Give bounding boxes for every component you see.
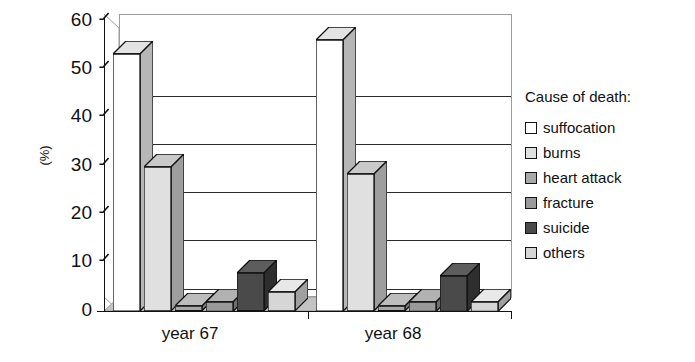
- bar-front-face: [471, 302, 498, 311]
- legend-swatch-suicide-icon: [525, 222, 537, 234]
- y-tickmark-20: [99, 205, 109, 216]
- legend-swatch-others-icon: [525, 247, 537, 259]
- y-tickmark-50: [99, 60, 109, 71]
- bar-front-face: [440, 276, 467, 311]
- bar-front-face: [378, 306, 405, 311]
- legend-item-fracture[interactable]: fracture: [525, 194, 693, 211]
- bar-front-face: [175, 306, 202, 311]
- x-category-label-year-68: year 68: [333, 324, 453, 344]
- bar-front-face: [113, 54, 140, 311]
- bar-side-face: [374, 161, 387, 311]
- y-tick-label-40: 40: [48, 106, 92, 125]
- bar-year-68-burns: [347, 161, 387, 311]
- legend-label: suicide: [543, 219, 590, 236]
- legend-label: suffocation: [543, 119, 615, 136]
- y-tickmark-40: [99, 108, 109, 119]
- legend-swatch-burns-icon: [525, 147, 537, 159]
- y-tick-label-60: 60: [48, 10, 92, 29]
- bar-year-68-others: [471, 289, 511, 311]
- legend-title: Cause of death:: [525, 88, 693, 105]
- legend-swatch-suffocation-icon: [525, 122, 537, 134]
- legend-item-burns[interactable]: burns: [525, 144, 693, 161]
- legend-item-suffocation[interactable]: suffocation: [525, 119, 693, 136]
- legend-label: others: [543, 244, 585, 261]
- legend-swatch-fracture-icon: [525, 197, 537, 209]
- bar-front-face: [316, 40, 343, 311]
- x-category-label-year-67: year 67: [130, 324, 250, 344]
- y-tickmark-30: [99, 157, 109, 168]
- y-tick-label-50: 50: [48, 58, 92, 77]
- bar-front-face: [144, 167, 171, 311]
- y-tick-label-20: 20: [48, 203, 92, 222]
- y-axis-label: (%): [37, 126, 52, 186]
- y-tick-label-10: 10: [48, 251, 92, 270]
- bar-chart: 60 50 40 30 20 10 0 (%) year 67 year 68 …: [0, 0, 695, 362]
- y-tickmark-60: [99, 12, 109, 23]
- y-tickmark-10: [99, 253, 109, 264]
- bar-front-face: [206, 302, 233, 311]
- bar-side-face: [171, 154, 184, 311]
- bar-year-67-burns: [144, 154, 184, 311]
- bar-front-face: [409, 302, 436, 311]
- x-axis-tick-mid: [308, 311, 309, 319]
- bar-year-67-others: [268, 279, 308, 311]
- legend-label: burns: [543, 144, 581, 161]
- legend-item-suicide[interactable]: suicide: [525, 219, 693, 236]
- y-tick-label-30: 30: [48, 155, 92, 174]
- legend-swatch-heart-attack-icon: [525, 172, 537, 184]
- x-axis-tick-right: [511, 311, 512, 319]
- bar-front-face: [347, 174, 374, 311]
- y-tickmark-0: [97, 311, 106, 312]
- legend-item-others[interactable]: others: [525, 244, 693, 261]
- legend: Cause of death: suffocationburnsheart at…: [525, 88, 693, 269]
- y-tick-label-0: 0: [48, 300, 92, 319]
- bar-front-face: [237, 273, 264, 311]
- legend-item-heart-attack[interactable]: heart attack: [525, 169, 693, 186]
- bar-front-face: [268, 292, 295, 311]
- legend-label: fracture: [543, 194, 594, 211]
- legend-items: suffocationburnsheart attackfracturesuic…: [525, 119, 693, 261]
- legend-label: heart attack: [543, 169, 621, 186]
